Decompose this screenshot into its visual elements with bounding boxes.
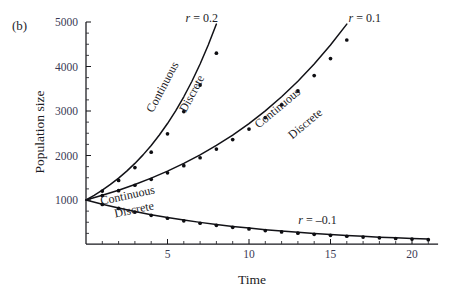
x-axis-minor-ticks [102, 241, 428, 244]
r-negative-01: r = –0.1 [298, 213, 336, 227]
data-point [198, 221, 202, 225]
data-point [215, 224, 219, 228]
r-positive-02: r = 0.2 [186, 11, 218, 25]
data-point [182, 219, 186, 223]
y-tick-label: 2000 [55, 150, 78, 162]
data-point [312, 74, 316, 78]
y-tick-label: 5000 [55, 16, 78, 28]
data-point [329, 57, 333, 61]
x-tick-label: 10 [243, 248, 255, 260]
data-point [117, 179, 121, 183]
y-axis-title: Population size [32, 91, 47, 174]
data-point [329, 233, 333, 237]
data-point [394, 237, 398, 241]
data-point [410, 237, 414, 241]
data-point [231, 138, 235, 142]
data-point [166, 216, 170, 220]
data-point [247, 227, 251, 231]
data-point [133, 166, 137, 170]
r-positive-01: r = 0.1 [349, 11, 381, 25]
data-point [166, 171, 170, 175]
y-tick-label: 4000 [55, 61, 78, 73]
data-point [149, 213, 153, 217]
data-point [182, 164, 186, 168]
data-point [215, 51, 219, 55]
data-point [198, 156, 202, 160]
data-point [280, 230, 284, 234]
data-point [247, 127, 251, 131]
data-point [345, 234, 349, 238]
data-point [149, 150, 153, 154]
data-point [231, 225, 235, 229]
data-point [426, 238, 430, 242]
data-point [149, 178, 153, 182]
data-point [166, 132, 170, 136]
data-point [378, 236, 382, 240]
y-tick-label: 3000 [55, 105, 78, 117]
x-axis-title: Time [238, 272, 266, 287]
panel-label: (b) [12, 18, 27, 33]
y-tick-label: 1000 [55, 194, 78, 206]
data-point [215, 147, 219, 151]
population-growth-figure: 10002000300040005000 5101520 r = 0.2r = … [0, 0, 458, 294]
data-point [312, 232, 316, 236]
data-point [361, 235, 365, 239]
data-point [263, 229, 267, 233]
figure-background [0, 0, 458, 294]
data-point [296, 231, 300, 235]
data-point [345, 38, 349, 42]
x-tick-label: 5 [165, 248, 171, 260]
x-tick-label: 20 [406, 248, 418, 260]
x-tick-label: 15 [325, 248, 337, 260]
